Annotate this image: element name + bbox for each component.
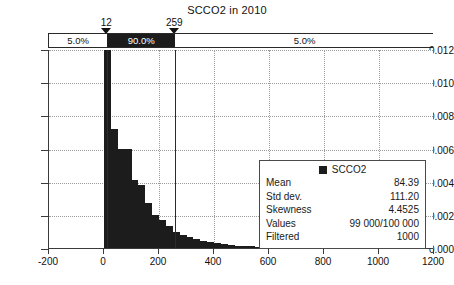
- histogram-bar: [138, 185, 145, 248]
- x-axis-tick: [378, 249, 379, 254]
- legend-stat-value: 4.4525: [388, 203, 419, 217]
- y-axis-tick: [41, 50, 48, 51]
- histogram-bar: [125, 149, 132, 249]
- histogram-bar: [180, 235, 187, 248]
- x-axis-tick: [213, 249, 214, 254]
- y-axis-tick: [41, 216, 48, 217]
- legend-stat-row: Values99 000/100 000: [266, 217, 419, 231]
- x-axis-label: 0: [100, 256, 106, 267]
- legend-stat-row: Skewness4.4525: [266, 203, 419, 217]
- histogram-bar: [207, 242, 214, 248]
- x-axis-tick: [103, 249, 104, 254]
- histogram-bar: [214, 243, 221, 248]
- x-axis-label: 600: [260, 256, 277, 267]
- legend-stats-list: Mean84.39Std dev.111.20Skewness4.4525Val…: [266, 176, 419, 244]
- percentile-segment[interactable]: 5.0%: [175, 34, 434, 47]
- legend-stat-key: Values: [266, 217, 296, 231]
- y-axis-tick: [41, 183, 48, 184]
- x-axis-label: 1000: [367, 256, 389, 267]
- histogram-bar: [145, 203, 152, 248]
- percentile-marker-label: 12: [101, 17, 112, 28]
- histogram-bar: [118, 149, 125, 249]
- x-axis-label: -200: [38, 256, 58, 267]
- y-axis-tick: [41, 83, 48, 84]
- legend-swatch-icon: [319, 166, 327, 174]
- legend-stat-value: 84.39: [394, 176, 419, 190]
- legend-stat-value: 99 000/100 000: [349, 217, 419, 231]
- y-axis-tick: [41, 150, 48, 151]
- legend-title: SCCO2: [332, 164, 366, 175]
- y-axis-tick: [41, 249, 48, 250]
- legend-stat-row: Mean84.39: [266, 176, 419, 190]
- histogram-bar: [228, 245, 235, 248]
- x-axis-tick: [268, 249, 269, 254]
- percentile-bar[interactable]: 5.0%90.0%5.0%: [48, 33, 433, 48]
- x-axis-label: 1200: [422, 256, 444, 267]
- histogram-bar: [193, 239, 200, 248]
- legend-stat-row: Std dev.111.20: [266, 190, 419, 204]
- percentile-marker-label: 259: [166, 17, 183, 28]
- histogram-bar: [111, 129, 118, 248]
- histogram-bar: [248, 246, 255, 248]
- x-axis-tick: [48, 249, 49, 254]
- histogram-bar: [221, 244, 228, 248]
- percentile-vertical-rule: [107, 50, 108, 248]
- histogram-bar: [187, 237, 194, 248]
- legend-stat-key: Mean: [266, 176, 291, 190]
- x-axis-label: 400: [205, 256, 222, 267]
- x-axis-label: 800: [315, 256, 332, 267]
- histogram-bar: [235, 246, 242, 248]
- histogram-bar: [152, 215, 159, 248]
- legend-stat-key: Std dev.: [266, 190, 302, 204]
- histogram-bar: [242, 246, 249, 248]
- x-axis-tick: [433, 249, 434, 254]
- percentile-segment[interactable]: 90.0%: [107, 34, 175, 47]
- x-axis-tick: [323, 249, 324, 254]
- legend-stat-value: 111.20: [390, 190, 419, 204]
- histogram-bar: [132, 180, 139, 248]
- chart-canvas: SCCO2 in 2010 12259 5.0%90.0%5.0% 0.0000…: [0, 0, 454, 285]
- legend-stat-key: Filtered: [266, 230, 299, 244]
- percentile-segment[interactable]: 5.0%: [49, 34, 107, 47]
- legend-stat-row: Filtered1000: [266, 230, 419, 244]
- histogram-bar: [200, 241, 207, 248]
- x-axis-tick: [158, 249, 159, 254]
- histogram-bar: [166, 226, 173, 248]
- legend-stat-value: 1000: [397, 230, 419, 244]
- legend-header: SCCO2: [266, 164, 419, 175]
- histogram-bar: [159, 220, 166, 248]
- y-axis-tick: [41, 116, 48, 117]
- legend-box[interactable]: SCCO2 Mean84.39Std dev.111.20Skewness4.4…: [259, 160, 426, 249]
- legend-stat-key: Skewness: [266, 203, 312, 217]
- page-title: SCCO2 in 2010: [0, 4, 454, 16]
- percentile-vertical-rule: [175, 50, 176, 248]
- x-axis-label: 200: [150, 256, 167, 267]
